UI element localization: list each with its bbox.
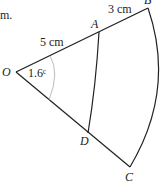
leading-text: m. (0, 8, 12, 22)
angle-label: 1.6ᶜ (28, 66, 46, 80)
sector-diagram: m. O A B D C 5 cm 3 cm 1.6ᶜ (0, 0, 164, 181)
label-C: C (125, 170, 134, 181)
label-O: O (2, 65, 11, 79)
radius-OC (16, 72, 130, 167)
length-AB: 3 cm (108, 2, 132, 16)
length-OA: 5 cm (40, 35, 64, 49)
radius-OB (16, 8, 148, 72)
label-B: B (144, 0, 152, 7)
angle-arc (49, 56, 55, 100)
arc-BC (130, 8, 159, 167)
segment-AD (88, 32, 99, 133)
label-A: A (90, 17, 99, 31)
label-D: D (79, 134, 89, 148)
